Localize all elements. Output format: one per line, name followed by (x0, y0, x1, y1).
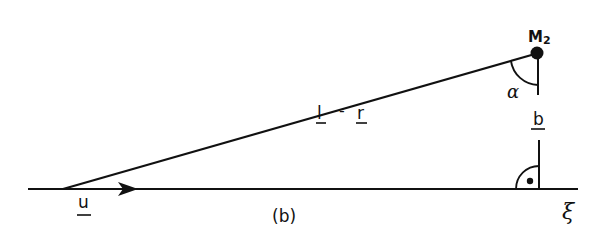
right-angle-dot (527, 178, 533, 184)
diagram-canvas: M2 α l - r b u (b) ξ (0, 0, 602, 252)
u-label: u (78, 192, 89, 212)
l-minus-r-line (63, 54, 535, 189)
panel-label: (b) (272, 206, 296, 226)
r-label: r (357, 103, 364, 123)
alpha-label: α (507, 81, 519, 102)
minus-label: - (339, 101, 345, 120)
b-label: b (533, 109, 544, 129)
m2-label: M2 (528, 28, 551, 47)
xi-axis-label: ξ (562, 199, 576, 224)
right-angle-arc (516, 166, 539, 189)
l-label: l (317, 103, 322, 123)
